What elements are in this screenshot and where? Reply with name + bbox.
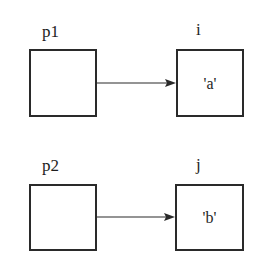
arrow-p1-to-i <box>97 79 176 87</box>
pointer-diagram: p1 i 'a' p2 j 'b' <box>0 0 271 264</box>
arrows-layer <box>0 0 271 264</box>
arrow-p2-to-j <box>97 213 175 221</box>
